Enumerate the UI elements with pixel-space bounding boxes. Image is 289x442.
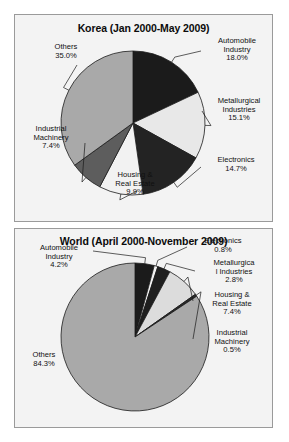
pie-label-housing-real-estate: Housing & Real Estate 9.9% bbox=[97, 171, 173, 197]
pie-label-metallurgical-industries: Metallurgical Industries 15.1% bbox=[203, 97, 273, 123]
pie-label-automobile-industry: Automobile Industry 18.0% bbox=[200, 37, 273, 63]
pie-label-metallurgical-industries: Metallurgica l Industries 2.8% bbox=[197, 259, 271, 285]
pie-label-electronics: Electronics 14.7% bbox=[201, 156, 271, 173]
leader-automobile bbox=[93, 251, 146, 264]
pie-label-electronics: Electronics 0.8% bbox=[185, 237, 261, 254]
chart-panel-korea: Korea (Jan 2000-May 2009) Automobile Ind… bbox=[14, 14, 273, 222]
chart-panel-world: World (April 2000-November 2009) Automob… bbox=[14, 228, 273, 428]
pie-label-others: Others 84.3% bbox=[17, 351, 71, 368]
pie-label-industrial-machinery: Industrial Machinery 7.4% bbox=[17, 125, 85, 151]
leader-electronics bbox=[156, 247, 187, 266]
pie-label-housing-real-estate: Housing & Real Estate 7.4% bbox=[195, 291, 269, 317]
leader-automobile bbox=[172, 51, 201, 62]
pie-label-others: Others 35.0% bbox=[37, 43, 95, 60]
leader-metallurgical bbox=[164, 263, 195, 271]
figure-canvas: Korea (Jan 2000-May 2009) Automobile Ind… bbox=[0, 0, 289, 442]
pie-label-automobile-industry: Automobile Industry 4.2% bbox=[23, 244, 95, 270]
pie-label-industrial-machinery: Industrial Machinery 0.5% bbox=[195, 329, 269, 355]
